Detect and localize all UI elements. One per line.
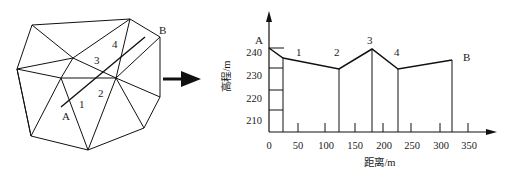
- drop-lines: [283, 49, 452, 132]
- svg-text:150: 150: [347, 140, 363, 151]
- svg-text:100: 100: [318, 140, 334, 151]
- figure: A B 1 2 3 4: [0, 0, 506, 176]
- svg-text:350: 350: [461, 140, 477, 151]
- tin-map: [17, 19, 160, 150]
- svg-text:220: 220: [246, 93, 262, 104]
- svg-text:50: 50: [293, 140, 304, 151]
- point-label-4: 4: [394, 46, 400, 58]
- point-label-1: 1: [296, 46, 302, 58]
- point-label-b: B: [463, 51, 470, 63]
- tin-labels: A B 1 2 3 4: [62, 24, 166, 122]
- svg-text:200: 200: [376, 140, 392, 151]
- svg-text:240: 240: [246, 47, 262, 58]
- x-tick-labels: 0 50 100 150 200 250 300 350: [266, 140, 477, 151]
- svg-text:230: 230: [246, 70, 262, 81]
- tin-label-a: A: [62, 110, 70, 122]
- svg-text:210: 210: [246, 115, 262, 126]
- svg-text:250: 250: [404, 140, 420, 151]
- tin-label-1: 1: [79, 98, 85, 110]
- y-tick-labels: 210 220 230 240: [246, 47, 262, 126]
- y-axis-arrow-icon: [266, 11, 272, 22]
- right-arrow-icon: [163, 71, 201, 87]
- tin-label-3: 3: [94, 54, 100, 66]
- y-axis: [266, 11, 272, 132]
- tin-label-4: 4: [112, 38, 118, 50]
- tin-label-2: 2: [98, 87, 104, 99]
- y-axis-title: 高程/m: [220, 60, 232, 91]
- x-axis-title: 距离/m: [364, 156, 395, 168]
- point-label-a: A: [255, 34, 263, 46]
- x-axis-arrow-icon: [486, 129, 497, 135]
- svg-text:0: 0: [266, 140, 271, 151]
- point-label-2: 2: [334, 46, 340, 58]
- tin-label-b: B: [159, 24, 166, 36]
- point-label-3: 3: [367, 34, 373, 46]
- x-ticks: [298, 123, 468, 132]
- profile-chart: 0 50 100 150 200 250 300 350 210 220 230…: [220, 11, 497, 168]
- svg-text:300: 300: [433, 140, 449, 151]
